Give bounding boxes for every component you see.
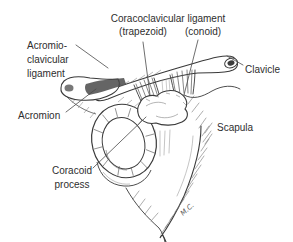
artist-signature: M.C. — [179, 201, 196, 217]
label-clavicle: Clavicle — [245, 64, 280, 76]
acromion-bone — [61, 77, 126, 100]
label-trapezoid: (trapezoid) — [112, 26, 174, 38]
label-acromion: Acromion — [18, 110, 60, 122]
label-coracoid-line2: process — [44, 178, 100, 192]
label-coracoid-process: Coracoid process — [44, 164, 100, 192]
label-coracoid-line1: Coracoid — [44, 164, 100, 178]
label-acromioclavicular-line3: ligament — [27, 67, 69, 81]
label-coracoclavicular-ligament: Coracoclavicular ligament — [102, 13, 234, 25]
label-acromioclavicular-ligament: Acromio- clavicular ligament — [27, 39, 69, 81]
label-acromioclavicular-line1: Acromio- — [27, 39, 69, 53]
label-acromioclavicular-line2: clavicular — [27, 53, 69, 67]
scapula-lateral-hatching — [161, 123, 212, 234]
scapula-lower-hatching — [133, 191, 158, 221]
label-conoid: (conoid) — [177, 26, 229, 38]
label-scapula: Scapula — [217, 122, 253, 134]
leader-acromioclavicular — [76, 45, 108, 68]
shoulder-ligaments-figure: M.C. Coracoclavicular ligament (trapezoi… — [0, 0, 293, 242]
